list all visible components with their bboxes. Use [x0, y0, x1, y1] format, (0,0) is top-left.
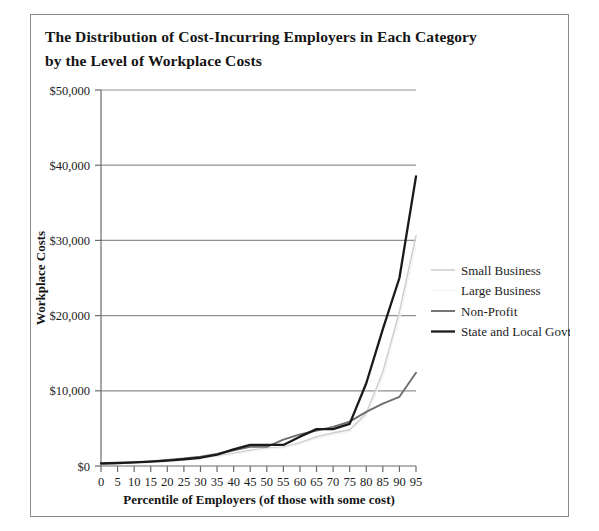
x-axis-tick-label: 30: [194, 475, 207, 489]
legend-item-label: Non-Profit: [461, 304, 518, 319]
legend: Small BusinessLarge BusinessNon-ProfitSt…: [431, 263, 570, 340]
y-axis-ticks-group: [95, 90, 101, 466]
data-series-line: [101, 245, 416, 464]
y-axis-title: Workplace Costs: [33, 231, 48, 325]
x-axis-tick-label: 95: [410, 475, 423, 489]
figure-container: The Distribution of Cost-Incurring Emplo…: [30, 14, 569, 517]
x-axis-ticks-group: [101, 466, 416, 472]
x-axis-tick-label: 70: [327, 475, 340, 489]
x-axis-tick-label: 25: [178, 475, 191, 489]
data-series-group: [101, 176, 416, 464]
x-axis-tick-labels-group: 05101520253035404550556065707580859095: [98, 475, 422, 489]
x-axis-tick-label: 15: [144, 475, 157, 489]
x-axis-tick-label: 35: [211, 475, 224, 489]
y-axis-tick-label: $50,000: [49, 84, 90, 98]
data-series-line: [101, 176, 416, 463]
x-axis-tick-label: 55: [277, 475, 290, 489]
y-axis-tick-labels-group: $0$10,000$20,000$30,000$40,000$50,000: [49, 84, 90, 474]
y-axis-tick-label: $10,000: [49, 384, 90, 398]
data-series-line: [101, 236, 416, 464]
x-axis-tick-label: 20: [161, 475, 174, 489]
y-axis-tick-label: $30,000: [49, 234, 90, 248]
y-axis-tick-label: $0: [78, 460, 91, 474]
x-axis-tick-label: 0: [98, 475, 104, 489]
x-axis-tick-label: 90: [393, 475, 406, 489]
x-axis-tick-label: 50: [261, 475, 274, 489]
plot-area-wrapper: $0$10,000$20,000$30,000$40,000$50,000 05…: [31, 15, 570, 518]
x-axis-tick-label: 60: [294, 475, 307, 489]
legend-item-label: Small Business: [461, 263, 541, 278]
x-axis-tick-label: 45: [244, 475, 256, 489]
x-axis-title: Percentile of Employers (of those with s…: [123, 492, 395, 507]
x-axis-tick-label: 85: [377, 475, 390, 489]
x-axis-tick-label: 65: [310, 475, 323, 489]
x-axis-tick-label: 75: [343, 475, 356, 489]
x-axis-tick-label: 10: [128, 475, 141, 489]
legend-item-label: Large Business: [461, 283, 541, 298]
line-chart: $0$10,000$20,000$30,000$40,000$50,000 05…: [31, 15, 570, 518]
x-axis-tick-label: 80: [360, 475, 373, 489]
y-axis-tick-label: $20,000: [49, 309, 90, 323]
x-axis-tick-label: 5: [114, 475, 120, 489]
legend-item-label: State and Local Govt.: [461, 324, 570, 339]
y-axis-tick-label: $40,000: [49, 159, 90, 173]
x-axis-tick-label: 40: [227, 475, 240, 489]
gridlines-group: [101, 90, 416, 391]
